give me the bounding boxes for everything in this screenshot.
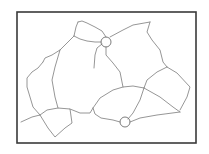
road-line (167, 67, 190, 110)
road-line (74, 36, 101, 42)
road-line (40, 108, 72, 137)
road-lines (21, 21, 190, 137)
circle-marker-2 (120, 117, 130, 127)
road-line (128, 88, 144, 119)
circle-marker-1 (101, 37, 111, 47)
road-line (21, 115, 40, 122)
road-line (93, 108, 120, 122)
road-line (27, 62, 43, 115)
road-line (94, 44, 102, 68)
road-line (93, 86, 144, 108)
road-line (78, 21, 106, 37)
road-line (130, 112, 180, 122)
diagram-frame (17, 12, 196, 143)
road-line (60, 36, 74, 50)
circle-markers (101, 37, 130, 127)
road-line (74, 22, 78, 36)
road-line (147, 22, 167, 67)
road-line (144, 67, 167, 88)
road-line (52, 50, 60, 108)
road-line (106, 47, 123, 87)
road-line (144, 88, 180, 112)
road-line (110, 22, 150, 37)
network-diagram (0, 0, 209, 154)
road-line (70, 108, 93, 113)
